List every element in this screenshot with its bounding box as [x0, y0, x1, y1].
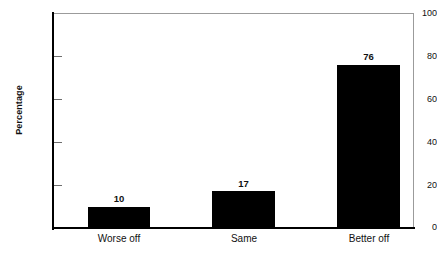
x-axis-label-same: Same: [204, 233, 284, 245]
bar-same[interactable]: [212, 191, 275, 228]
bar-value-worse-off: 10: [88, 194, 150, 204]
bar-value-same: 17: [212, 179, 275, 189]
x-axis-label-worse-off: Worse off: [79, 233, 159, 245]
bar-better-off[interactable]: [337, 65, 400, 228]
bar-value-better-off: 76: [337, 52, 400, 62]
bar-worse-off[interactable]: [88, 207, 150, 229]
y-axis-title: Percentage: [14, 55, 24, 165]
x-axis-label-better-off: Better off: [329, 233, 409, 245]
bar-chart: Percentage 100 80 60 40 20 0 10 17 76 Wo…: [0, 0, 437, 253]
